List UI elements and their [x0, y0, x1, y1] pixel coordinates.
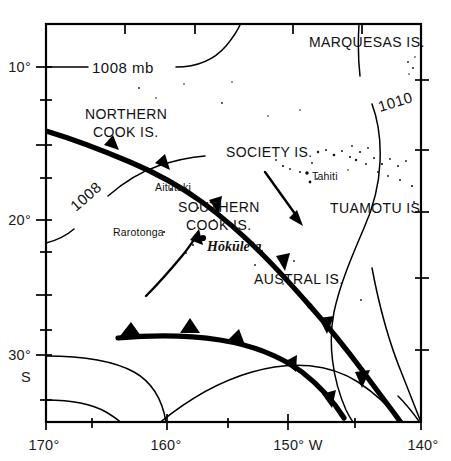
island-dot — [325, 149, 327, 151]
island-dot — [355, 159, 357, 161]
island-dot — [333, 154, 336, 157]
island-dot — [254, 264, 256, 266]
island-dot — [381, 163, 383, 165]
island-dot — [349, 156, 351, 158]
label-society-is: SOCIETY IS. — [226, 144, 313, 160]
island-dot — [317, 151, 319, 153]
wind-flow-arrowhead — [289, 210, 303, 226]
island-dot — [341, 150, 343, 152]
island-dot — [221, 102, 223, 104]
island-dot — [293, 260, 295, 262]
front-barb — [284, 355, 297, 372]
map-canvas: 10° 20° 30° S 170° 160° 150° W 140° 1008… — [0, 0, 451, 461]
isobar-label-1008-mb: 1008 mb — [92, 59, 154, 76]
x-axis-ticks-top — [125, 24, 362, 34]
label-southern-cook-is-line2: COOK IS. — [186, 217, 251, 233]
front-barb — [120, 322, 141, 336]
y-axis-ticks — [36, 67, 52, 400]
label-marquesas-is: MARQUESAS IS. — [309, 34, 425, 50]
island-dot — [289, 168, 291, 170]
label-tahiti: Tahiti — [312, 170, 338, 182]
island-dot — [231, 81, 233, 83]
island-dot — [299, 171, 301, 173]
front-barb — [155, 154, 170, 170]
island-dot — [299, 109, 301, 111]
x-tick-label-160: 160° — [150, 437, 181, 453]
label-aitutaki: Aitutaki — [155, 181, 191, 193]
island-dot — [138, 87, 140, 89]
label-austral-is: AUSTRAL IS. — [254, 271, 343, 287]
label-rarotonga: Rarotonga — [113, 226, 164, 238]
y-tick-label-10: 10° — [8, 59, 31, 75]
wind-flow-arrow — [265, 172, 298, 218]
island-dot — [365, 163, 367, 165]
island-dot — [414, 56, 416, 58]
island-dot — [309, 181, 312, 184]
vessel-track-arrow — [146, 235, 197, 296]
island-dot — [367, 147, 369, 149]
island-dot — [183, 83, 185, 85]
island-dot — [405, 160, 407, 162]
island-dot — [282, 165, 284, 167]
label-northern-cook-is-line2: COOK IS. — [93, 124, 158, 140]
hokulea-position-dot[interactable] — [200, 235, 206, 241]
island-dot — [351, 145, 353, 147]
isobar-1010-east — [331, 24, 380, 432]
x-tick-label-170: 170° — [28, 437, 59, 453]
island-dot — [377, 171, 379, 173]
front-south — [118, 336, 344, 418]
island-dot — [407, 61, 409, 63]
y-hemisphere-label: S — [21, 369, 31, 385]
island-dot — [389, 158, 391, 160]
island-dot — [311, 162, 313, 164]
island-dot — [360, 299, 362, 301]
island-dot — [359, 151, 361, 153]
isobar-label-1010-east: 1010 — [376, 88, 415, 115]
island-dot — [397, 165, 399, 167]
front-north-continuation — [310, 306, 402, 424]
isobar-label-1008-west: 1008 — [67, 178, 105, 214]
y-tick-label-30: 30° — [8, 347, 31, 363]
island-dot — [267, 115, 269, 117]
front-layer — [46, 131, 402, 424]
island-dots-layer — [51, 56, 416, 301]
label-tuamotu-is: TUAMOTU IS. — [330, 200, 425, 216]
front-barb — [180, 318, 200, 333]
label-southern-cook-is-line1: SOUTHERN — [178, 199, 260, 215]
tahiti-dot — [305, 171, 309, 175]
island-dot — [399, 179, 401, 181]
label-hokulea: Hōkūleʻa — [206, 239, 261, 254]
weather-map-figure: 10° 20° 30° S 170° 160° 150° W 140° 1008… — [0, 0, 451, 461]
isobar-south-2 — [46, 400, 122, 424]
island-dot — [387, 175, 389, 177]
island-dot — [408, 73, 410, 75]
island-dot — [373, 157, 375, 159]
x-tick-label-140: 140° — [407, 437, 438, 453]
x-tick-label-150: 150° W — [273, 437, 323, 453]
island-dot — [411, 185, 413, 187]
label-northern-cook-is-line1: NORTHERN — [85, 106, 167, 122]
y-tick-label-20: 20° — [8, 212, 31, 228]
island-dot — [347, 169, 349, 171]
island-dot — [412, 67, 414, 69]
island-dot — [155, 97, 157, 99]
